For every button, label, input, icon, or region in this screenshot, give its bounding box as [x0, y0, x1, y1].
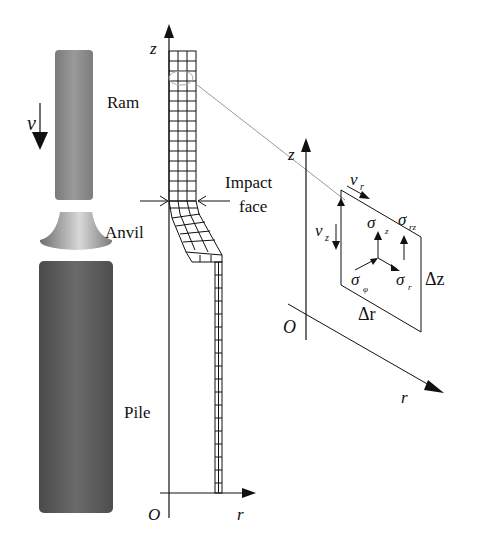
- sigma-phi-arrow: [355, 258, 378, 270]
- pile-label: Pile: [124, 403, 150, 422]
- v-r-label: v: [350, 170, 358, 189]
- v-z-arrow: [332, 224, 340, 250]
- sigma-rz-label: σ: [398, 210, 407, 229]
- pile: [39, 261, 113, 513]
- element-origin-label: O: [283, 317, 296, 337]
- impact-face-label-1: Impact: [225, 173, 272, 192]
- impact-face-label-2: face: [239, 197, 267, 216]
- element-r-label: r: [401, 388, 408, 407]
- pile-mesh: [215, 262, 222, 493]
- sigma-z-label: σ: [367, 213, 376, 232]
- anvil: [40, 212, 112, 250]
- zoom-circle: [169, 71, 193, 85]
- sigma-phi-label: σ: [351, 270, 360, 289]
- ram-label: Ram: [107, 93, 139, 112]
- mesh-r-axis: [160, 488, 256, 498]
- sigma-phi-subscript: φ: [363, 284, 368, 294]
- anvil-mesh: [169, 201, 222, 262]
- mesh-origin-label: O: [148, 505, 160, 524]
- sigma-z-subscript: z: [384, 226, 389, 236]
- velocity-label: v: [27, 112, 36, 134]
- element-volume: [341, 190, 421, 332]
- sigma-r-subscript: r: [408, 282, 412, 292]
- element-z-axis: [301, 138, 311, 340]
- sigma-r-label: σ: [396, 270, 405, 289]
- ram: [55, 50, 93, 200]
- v-z-label: v: [315, 221, 323, 240]
- v-z-subscript: z: [324, 232, 329, 243]
- diagram-canvas: v Ram Anvil Pile z r O: [0, 0, 477, 546]
- ram-mesh: [169, 51, 196, 201]
- mesh-z-label: z: [149, 39, 157, 58]
- anvil-label: Anvil: [105, 223, 144, 242]
- v-r-subscript: r: [360, 181, 364, 192]
- pile-driving-diagram: v Ram Anvil Pile z r O: [0, 0, 477, 546]
- delta-r-label: Δr: [358, 304, 376, 324]
- mesh-r-label: r: [237, 505, 244, 524]
- sigma-rz-subscript: rz: [409, 222, 417, 232]
- sigma-rz-arrow: [400, 235, 408, 260]
- element-z-label: z: [287, 145, 295, 164]
- delta-z-label: Δz: [425, 269, 445, 289]
- sigma-z-arrow: [374, 231, 382, 258]
